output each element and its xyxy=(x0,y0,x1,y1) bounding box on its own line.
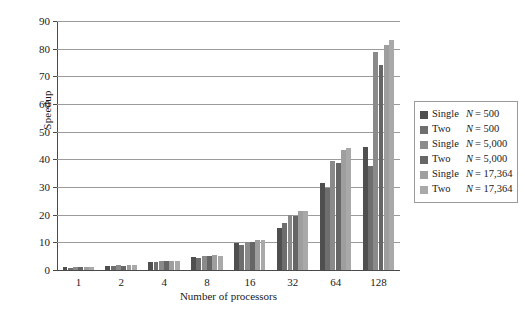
bar-series-container xyxy=(57,21,400,270)
legend-label: SingleN= 5,000 xyxy=(432,139,507,150)
bar xyxy=(341,150,346,270)
bar xyxy=(169,261,174,270)
speedup-bar-chart: Speedup 0102030405060708090 124816326412… xyxy=(0,0,525,317)
legend-n-value: = 5,000 xyxy=(475,139,507,150)
legend-n-symbol: N xyxy=(466,184,473,195)
bar xyxy=(379,65,384,270)
legend-label: TwoN= 17,364 xyxy=(432,184,512,195)
legend-swatch-icon xyxy=(420,186,428,194)
legend-item: TwoN= 5,000 xyxy=(420,152,512,167)
legend-n-value: = 500 xyxy=(475,109,499,120)
legend-n-symbol: N xyxy=(466,169,473,180)
bar xyxy=(234,243,239,270)
bar xyxy=(148,262,153,270)
bar xyxy=(293,216,298,270)
bar xyxy=(212,255,217,270)
legend-n-symbol: N xyxy=(466,109,473,120)
bar xyxy=(368,166,373,270)
legend-item: SingleN= 17,364 xyxy=(420,167,512,182)
legend-swatch-icon xyxy=(420,111,428,119)
bar xyxy=(250,242,255,270)
legend-item: SingleN= 5,000 xyxy=(420,137,512,152)
bar-group xyxy=(105,21,137,270)
bar xyxy=(68,268,73,270)
bar xyxy=(159,261,164,270)
chart-legend: SingleN= 500TwoN= 500SingleN= 5,000TwoN=… xyxy=(414,101,518,203)
bar-group xyxy=(320,21,352,270)
x-tick-label: 128 xyxy=(370,276,387,288)
plot-area: 0102030405060708090 1248163264128 xyxy=(57,21,400,270)
x-tick-label: 2 xyxy=(119,276,125,288)
x-tick-label: 64 xyxy=(330,276,341,288)
legend-swatch-icon xyxy=(420,171,428,179)
bar xyxy=(132,265,137,270)
bar xyxy=(63,267,68,270)
bar xyxy=(164,261,169,270)
bar xyxy=(121,266,126,270)
x-tick-label: 32 xyxy=(287,276,298,288)
bar xyxy=(363,147,368,270)
legend-n-symbol: N xyxy=(466,124,473,135)
y-tick-mark xyxy=(53,270,57,271)
bar xyxy=(154,262,159,270)
legend-n-value: = 500 xyxy=(475,124,499,135)
bar xyxy=(373,52,378,270)
bar xyxy=(325,188,330,270)
x-axis-title: Number of processors xyxy=(57,290,400,302)
bar-group xyxy=(148,21,180,270)
legend-label: TwoN= 5,000 xyxy=(432,154,507,165)
legend-label: SingleN= 17,364 xyxy=(432,169,512,180)
y-tick-label: 50 xyxy=(39,126,50,137)
legend-kind: Two xyxy=(432,154,466,165)
x-tick-label: 1 xyxy=(76,276,82,288)
bar xyxy=(336,163,341,270)
bar xyxy=(196,258,201,270)
bar xyxy=(207,256,212,270)
bar xyxy=(384,45,389,270)
legend-kind: Single xyxy=(432,169,466,180)
bar xyxy=(116,265,121,270)
bar xyxy=(282,223,287,270)
bar xyxy=(191,257,196,270)
legend-item: TwoN= 17,364 xyxy=(420,182,512,197)
bar xyxy=(277,228,282,270)
legend-swatch-icon xyxy=(420,141,428,149)
bar xyxy=(261,240,266,270)
bar-group xyxy=(191,21,223,270)
bar xyxy=(303,211,308,270)
bar-group xyxy=(234,21,266,270)
bar xyxy=(89,267,94,270)
bar xyxy=(245,242,250,270)
x-tick-label: 8 xyxy=(204,276,210,288)
bar xyxy=(298,211,303,270)
bar xyxy=(111,266,116,270)
legend-n-value: = 17,364 xyxy=(475,184,512,195)
x-tick-label: 4 xyxy=(161,276,167,288)
bar xyxy=(175,261,180,270)
bar-group xyxy=(63,21,95,270)
bar xyxy=(127,265,132,270)
legend-kind: Single xyxy=(432,139,466,150)
bar xyxy=(73,267,78,270)
y-tick-label: 70 xyxy=(39,71,50,82)
bar xyxy=(105,266,110,270)
bar xyxy=(346,148,351,270)
legend-n-value: = 17,364 xyxy=(475,169,512,180)
legend-label: TwoN= 500 xyxy=(432,124,499,135)
y-tick-label: 20 xyxy=(39,209,50,220)
y-tick-label: 40 xyxy=(39,154,50,165)
bar xyxy=(78,267,83,270)
legend-item: SingleN= 500 xyxy=(420,107,512,122)
bar-group xyxy=(363,21,395,270)
bar xyxy=(218,256,223,270)
x-axis-line xyxy=(57,270,400,271)
legend-n-symbol: N xyxy=(466,154,473,165)
bar xyxy=(239,245,244,270)
y-tick-label: 80 xyxy=(39,43,50,54)
legend-n-symbol: N xyxy=(466,139,473,150)
legend-item: TwoN= 500 xyxy=(420,122,512,137)
bar xyxy=(84,267,89,270)
legend-kind: Single xyxy=(432,109,466,120)
bar xyxy=(288,215,293,270)
y-tick-label: 10 xyxy=(39,237,50,248)
